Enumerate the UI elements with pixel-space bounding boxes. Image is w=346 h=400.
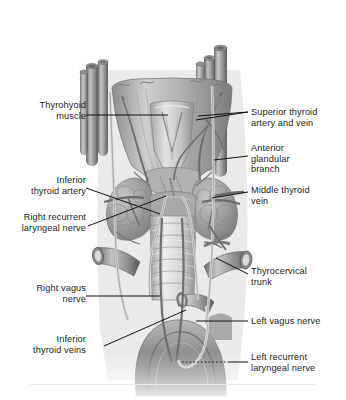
label-thyrohyoid-muscle: Thyrohyoid muscle bbox=[40, 100, 86, 121]
label-left-recurrent-laryngeal-nerve: Left recurrent laryngeal nerve bbox=[251, 352, 315, 373]
label-left-vagus-nerve: Left vagus nerve bbox=[251, 316, 321, 327]
top-margin bbox=[0, 0, 346, 30]
label-right-recurrent-laryngeal-nerve: Right recurrent laryngeal nerve bbox=[22, 212, 86, 233]
anatomy-figure: Thyrohyoid muscle Inferior thyroid arter… bbox=[0, 0, 346, 400]
label-superior-thyroid-artery-and-vein: Superior thyroid artery and vein bbox=[251, 107, 317, 128]
label-anterior-glandular-branch: Anterior glandular branch bbox=[251, 143, 290, 175]
label-inferior-thyroid-artery: Inferior thyroid artery bbox=[31, 175, 86, 196]
label-right-vagus-nerve: Right vagus nerve bbox=[36, 283, 86, 304]
label-middle-thyroid-vein: Middle thyroid vein bbox=[251, 185, 310, 206]
label-thyrocervical-trunk: Thyrocervical trunk bbox=[251, 266, 307, 287]
figure-baseline bbox=[30, 384, 316, 385]
label-inferior-thyroid-veins: Inferior thyroid veins bbox=[33, 334, 86, 355]
